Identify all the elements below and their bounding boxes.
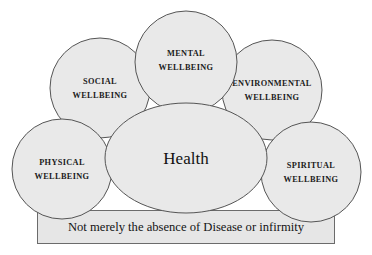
- bubble-physical-label-line1: PHYSICAL: [39, 158, 85, 167]
- bubble-mental-label-line2: WELLBEING: [159, 63, 214, 72]
- bubble-spiritual-circle[interactable]: [261, 122, 361, 222]
- bubble-physical-circle[interactable]: [12, 119, 112, 219]
- bubble-social-label-line1: SOCIAL: [83, 77, 117, 86]
- bubble-spiritual-label-line1: SPIRITUAL: [287, 161, 335, 170]
- bubble-mental-label-line1: MENTAL: [167, 49, 205, 58]
- health-model-svg: Not merely the absence of Disease or inf…: [0, 0, 372, 255]
- bubble-health-label: Health: [163, 149, 209, 168]
- bubble-mental[interactable]: MENTAL WELLBEING: [135, 11, 237, 113]
- bubble-environmental-label-line1: ENVIRONMENTAL: [232, 79, 312, 88]
- bubble-environmental-label-line2: WELLBEING: [245, 93, 300, 102]
- bubble-physical[interactable]: PHYSICAL WELLBEING: [12, 119, 112, 219]
- bubble-spiritual[interactable]: SPIRITUAL WELLBEING: [261, 122, 361, 222]
- bubble-health-core[interactable]: Health: [105, 103, 267, 213]
- base-bar-label: Not merely the absence of Disease or inf…: [68, 220, 305, 234]
- bubble-physical-label-line2: WELLBEING: [35, 172, 90, 181]
- bubble-spiritual-label-line2: WELLBEING: [284, 175, 339, 184]
- bubble-social-label-line2: WELLBEING: [73, 91, 128, 100]
- health-diagram: Not merely the absence of Disease or inf…: [0, 0, 372, 255]
